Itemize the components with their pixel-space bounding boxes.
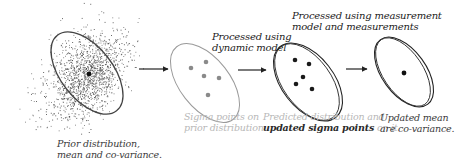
scatter-sample	[96, 43, 97, 44]
scatter-sample	[71, 62, 72, 63]
scatter-sample	[89, 62, 90, 63]
scatter-sample	[28, 92, 29, 93]
scatter-sample	[83, 118, 84, 119]
scatter-sample	[93, 68, 94, 69]
scatter-sample	[66, 117, 67, 118]
scatter-sample	[125, 29, 126, 30]
scatter-sample	[69, 47, 70, 48]
scatter-sample	[80, 105, 81, 106]
scatter-sample	[99, 70, 100, 71]
scatter-sample	[46, 109, 47, 110]
scatter-sample	[43, 76, 44, 77]
scatter-sample	[88, 79, 89, 80]
scatter-sample	[103, 119, 104, 120]
scatter-sample	[66, 93, 67, 94]
scatter-sample	[88, 96, 89, 97]
scatter-sample	[128, 32, 129, 33]
scatter-sample	[111, 49, 112, 50]
scatter-sample	[100, 62, 101, 63]
scatter-sample	[85, 33, 86, 34]
scatter-sample	[80, 46, 81, 47]
scatter-sample	[75, 81, 76, 82]
scatter-sample	[92, 70, 93, 71]
scatter-sample	[107, 70, 108, 71]
scatter-sample	[100, 70, 101, 71]
scatter-sample	[111, 59, 112, 60]
scatter-sample	[105, 70, 106, 71]
scatter-sample	[99, 19, 100, 20]
scatter-sample	[85, 78, 86, 79]
scatter-sample	[92, 64, 93, 65]
scatter-sample	[84, 90, 85, 91]
scatter-sample	[83, 57, 84, 58]
scatter-sample	[80, 66, 81, 67]
scatter-sample	[117, 39, 118, 40]
scatter-sample	[64, 88, 65, 89]
updated-sigma-point	[294, 82, 299, 87]
scatter-sample	[91, 97, 92, 98]
scatter-sample	[67, 69, 68, 70]
scatter-sample	[60, 83, 61, 84]
scatter-sample	[68, 71, 69, 72]
scatter-sample	[46, 114, 47, 115]
scatter-sample	[85, 110, 86, 111]
scatter-sample	[85, 103, 86, 104]
scatter-sample	[97, 87, 98, 88]
scatter-sample	[49, 70, 50, 71]
scatter-sample	[94, 75, 95, 76]
scatter-sample	[72, 70, 73, 71]
scatter-sample	[139, 55, 140, 56]
sigma-points-updated	[293, 58, 315, 92]
updated-caption-line-1: Updated mean	[380, 112, 454, 123]
scatter-sample	[114, 60, 115, 61]
scatter-sample	[126, 42, 127, 43]
scatter-sample	[82, 69, 83, 70]
scatter-sample	[74, 75, 75, 76]
scatter-sample	[54, 53, 55, 54]
scatter-sample	[97, 68, 98, 69]
scatter-sample	[63, 118, 64, 119]
scatter-sample	[45, 81, 46, 82]
scatter-sample	[68, 114, 69, 115]
scatter-sample	[105, 60, 106, 61]
scatter-sample	[69, 63, 70, 64]
scatter-sample	[65, 47, 66, 48]
scatter-sample	[89, 98, 90, 99]
scatter-sample	[71, 72, 72, 73]
scatter-sample	[108, 55, 109, 56]
scatter-sample	[86, 61, 87, 62]
scatter-sample	[100, 102, 101, 103]
scatter-sample	[120, 71, 121, 72]
scatter-sample	[93, 63, 94, 64]
scatter-sample	[96, 72, 97, 73]
scatter-sample	[95, 70, 96, 71]
scatter-sample	[86, 62, 87, 63]
scatter-sample	[90, 94, 91, 95]
scatter-sample	[116, 59, 117, 60]
scatter-sample	[81, 105, 82, 106]
scatter-sample	[97, 107, 98, 108]
scatter-sample	[92, 107, 93, 108]
scatter-sample	[85, 69, 86, 70]
scatter-sample	[48, 71, 49, 72]
scatter-sample	[83, 114, 84, 115]
scatter-sample	[89, 64, 90, 65]
scatter-sample	[78, 65, 79, 66]
scatter-sample	[43, 85, 44, 86]
scatter-sample	[78, 88, 79, 89]
scatter-sample	[105, 101, 106, 102]
scatter-sample	[115, 41, 116, 42]
scatter-sample	[64, 63, 65, 64]
scatter-sample	[76, 61, 77, 62]
scatter-sample	[87, 25, 88, 26]
scatter-sample	[65, 56, 66, 57]
scatter-sample	[84, 102, 85, 103]
scatter-sample	[62, 18, 63, 19]
scatter-sample	[85, 60, 86, 61]
scatter-sample	[89, 42, 90, 43]
scatter-sample	[72, 63, 73, 64]
scatter-sample	[84, 80, 85, 81]
scatter-sample	[66, 43, 67, 44]
scatter-sample	[84, 68, 85, 69]
scatter-sample	[40, 126, 41, 127]
